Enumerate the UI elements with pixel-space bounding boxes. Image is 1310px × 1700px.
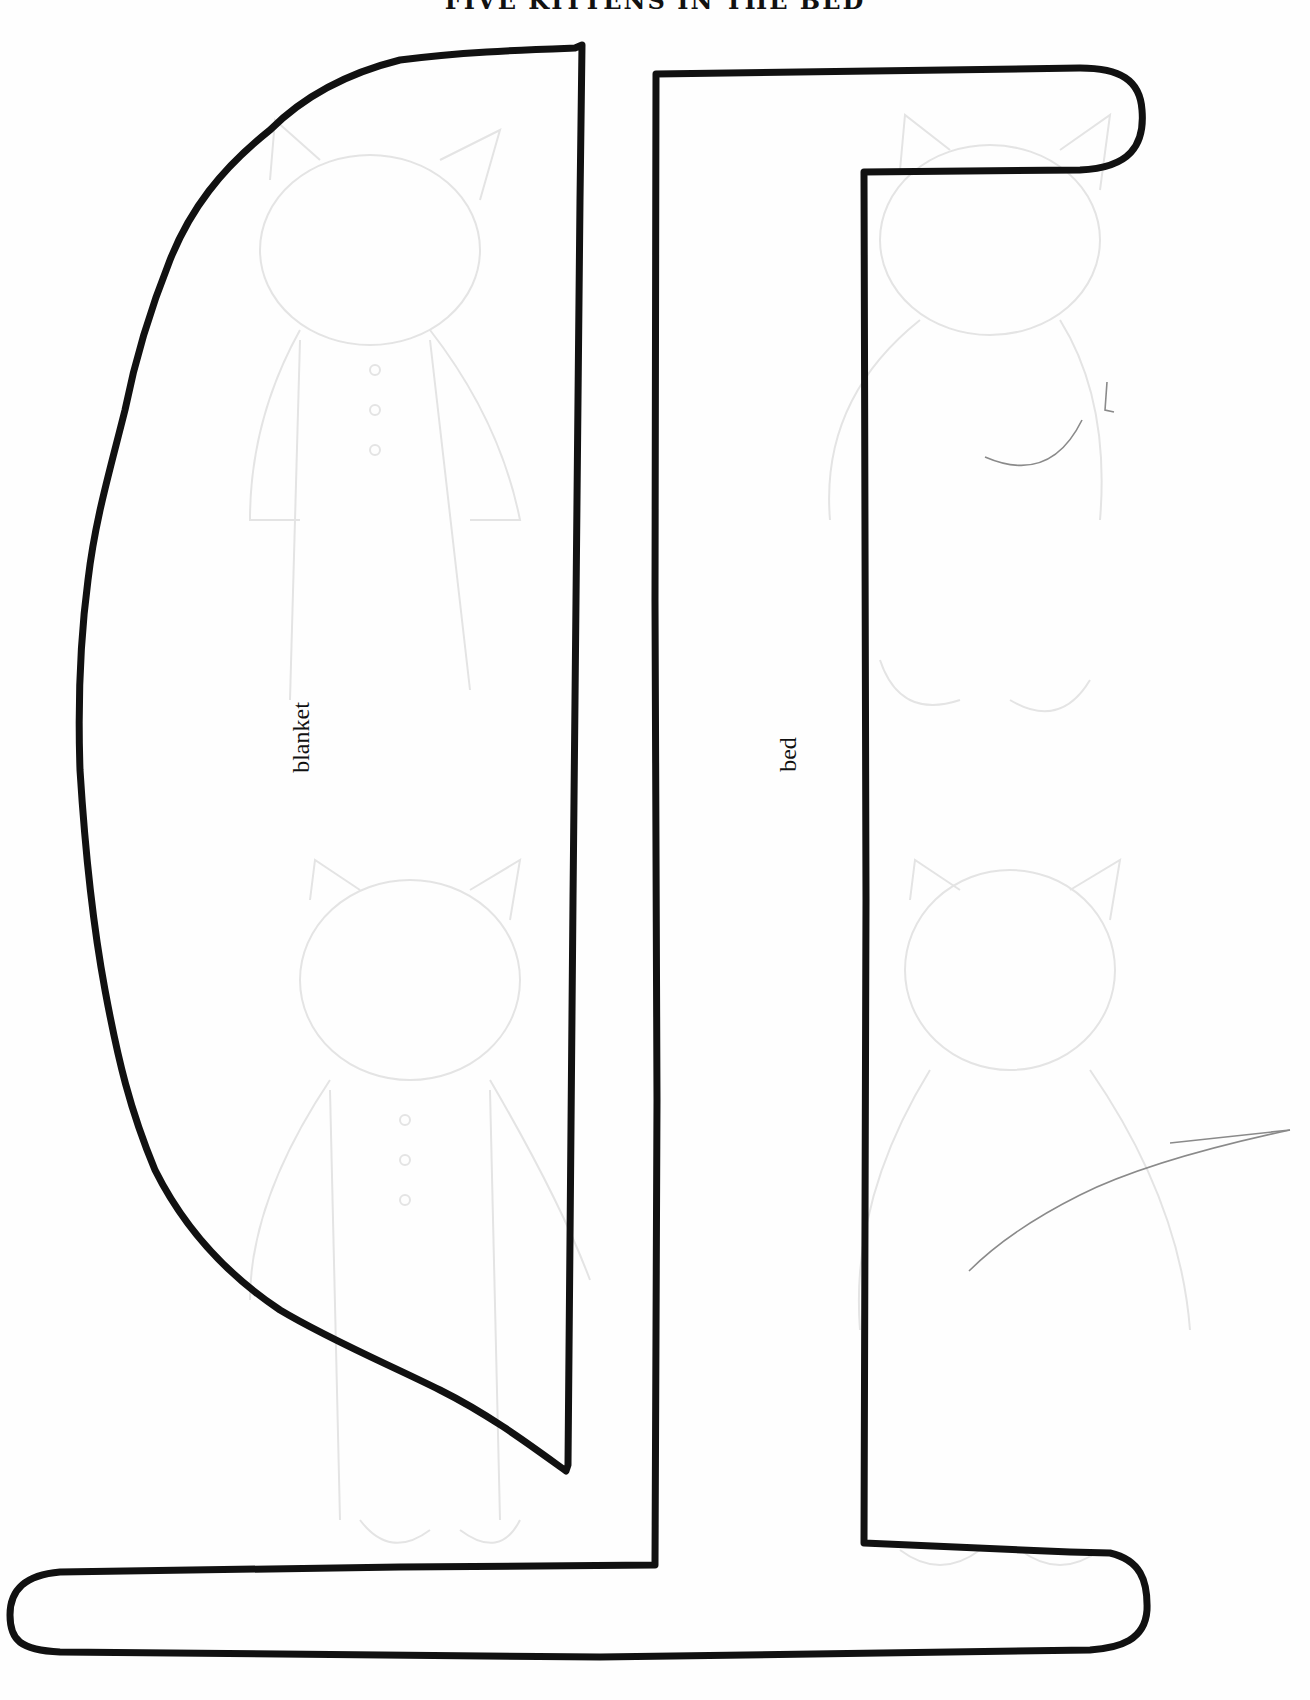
blanket-label: blanket [288, 698, 315, 778]
stray-pencil-marks [969, 382, 1290, 1271]
pattern-artwork [0, 0, 1310, 1700]
worksheet-page: FIVE KITTENS IN THE BED [0, 0, 1310, 1700]
blanket-piece-outline [79, 45, 582, 1471]
bed-label: bed [775, 725, 802, 785]
kitten-sketches [250, 115, 1190, 1565]
